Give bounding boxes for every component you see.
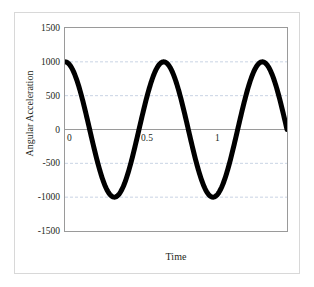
x-tick-label: 0.5 [141, 133, 153, 143]
y-tick-label: 0 [14, 125, 60, 135]
y-axis-title: Angular Acceleration [24, 39, 35, 189]
x-tick-label: 1 [215, 133, 220, 143]
y-tick-label: -500 [14, 158, 60, 168]
y-tick-label: 1000 [14, 57, 60, 67]
y-tick-label: 500 [14, 91, 60, 101]
x-tick-label: 0 [67, 133, 72, 143]
y-axis-tick-labels: 1500 1000 500 0 -500 -1000 -1500 [10, 27, 60, 232]
chart-figure: 1500 1000 500 0 -500 -1000 -1500 0 0.5 1… [0, 0, 314, 287]
x-axis-title: Time [64, 251, 288, 262]
y-tick-label: -1500 [14, 226, 60, 236]
y-tick-label: -1000 [14, 192, 60, 202]
x-axis-tick-labels: 0 0.5 1 1.5 [64, 27, 288, 232]
y-tick-label: 1500 [14, 23, 60, 33]
